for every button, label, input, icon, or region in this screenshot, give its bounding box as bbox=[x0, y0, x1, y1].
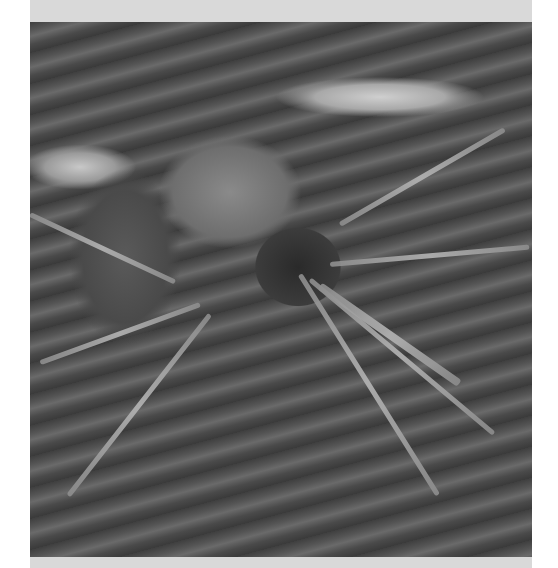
mosquito-leg bbox=[66, 313, 212, 497]
mosquito-leg bbox=[339, 127, 506, 226]
mosquito-photo bbox=[30, 22, 532, 557]
mosquito-leg bbox=[298, 273, 440, 496]
mosquito-leg bbox=[30, 212, 176, 284]
mosquito-leg bbox=[330, 245, 530, 267]
